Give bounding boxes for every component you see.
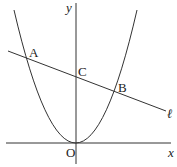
diagram-canvas <box>0 0 177 167</box>
line-l-label: ℓ <box>167 107 172 120</box>
x-axis-label: x <box>168 146 174 159</box>
point-a-label: A <box>29 46 38 59</box>
point-c-label: C <box>78 65 87 78</box>
line-l <box>8 51 166 111</box>
point-b-label: B <box>118 81 127 94</box>
y-axis-label: y <box>66 1 72 14</box>
origin-label: O <box>66 146 75 159</box>
